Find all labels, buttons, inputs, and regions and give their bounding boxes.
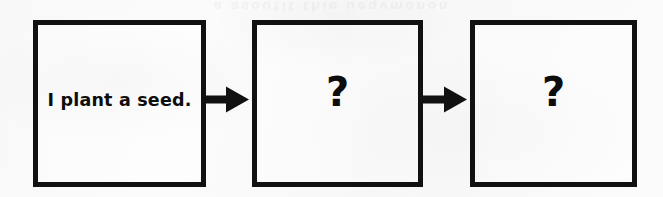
sequence-box-2[interactable]: ? — [252, 20, 423, 187]
scanned-worksheet-page: a asoutit thie ueqvmonon I plant a seed.… — [0, 0, 663, 197]
sequence-box-1-text: I plant a seed. — [41, 90, 197, 110]
sequence-box-1[interactable]: I plant a seed. — [33, 20, 206, 187]
sequence-box-3-text: ? — [542, 72, 565, 112]
sequence-diagram: I plant a seed. ? ? — [0, 0, 663, 197]
arrow-right-icon-1 — [202, 85, 250, 114]
sequence-box-3[interactable]: ? — [470, 20, 637, 187]
arrow-right-icon-2 — [420, 85, 468, 114]
sequence-box-2-text: ? — [326, 72, 349, 112]
